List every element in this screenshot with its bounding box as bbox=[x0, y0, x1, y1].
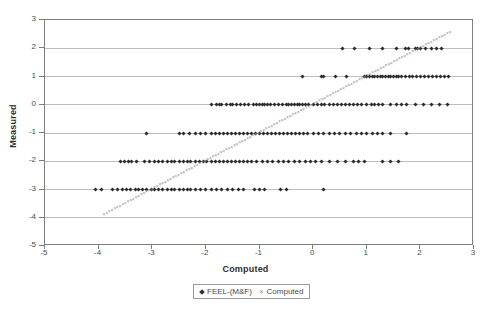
diamond-marker-icon bbox=[199, 289, 205, 295]
data-point-feel bbox=[236, 187, 240, 191]
data-point-feel bbox=[440, 46, 444, 50]
data-point-feel bbox=[314, 159, 318, 163]
data-point-feel bbox=[263, 187, 267, 191]
scatter-chart: ××××××××××××××××××××××××××××××××××××××××… bbox=[0, 0, 491, 313]
data-point-feel bbox=[303, 159, 307, 163]
data-point-feel bbox=[367, 46, 371, 50]
y-tick-label: -3 bbox=[6, 185, 36, 193]
data-point-feel bbox=[343, 131, 347, 135]
x-tick-label: 2 bbox=[404, 249, 434, 257]
y-tick-label: 2 bbox=[6, 43, 36, 51]
data-point-feel bbox=[214, 187, 218, 191]
y-tick-mark bbox=[39, 19, 44, 20]
data-point-feel bbox=[389, 103, 393, 107]
data-point-feel bbox=[413, 103, 417, 107]
y-tick-label: -5 bbox=[6, 241, 36, 249]
data-point-feel bbox=[394, 46, 398, 50]
y-tick-mark bbox=[39, 47, 44, 48]
chart-legend: FEEL-(M&F) × Computed bbox=[193, 284, 310, 299]
plot-area: ××××××××××××××××××××××××××××××××××××××××… bbox=[44, 19, 473, 245]
data-point-feel bbox=[421, 103, 425, 107]
x-tick-label: -5 bbox=[29, 249, 59, 257]
data-point-feel bbox=[280, 103, 284, 107]
data-point-feel bbox=[193, 131, 197, 135]
y-tick-label: 1 bbox=[6, 72, 36, 80]
y-tick-mark bbox=[39, 76, 44, 77]
data-point-feel bbox=[204, 187, 208, 191]
data-point-feel bbox=[334, 74, 338, 78]
data-point-feel bbox=[344, 74, 348, 78]
gridline bbox=[45, 217, 472, 218]
data-point-feel bbox=[434, 46, 438, 50]
data-point-feel bbox=[365, 131, 369, 135]
x-tick-label: -3 bbox=[136, 249, 166, 257]
data-point-feel bbox=[327, 131, 331, 135]
y-tick-label: 0 bbox=[6, 100, 36, 108]
data-point-feel bbox=[145, 131, 149, 135]
data-point-feel bbox=[193, 187, 197, 191]
y-tick-mark bbox=[39, 104, 44, 105]
data-point-feel bbox=[354, 131, 358, 135]
data-point-feel bbox=[308, 159, 312, 163]
data-point-feel bbox=[306, 131, 310, 135]
data-point-feel bbox=[319, 159, 323, 163]
x-tick-label: 0 bbox=[297, 249, 327, 257]
data-point-feel bbox=[429, 103, 433, 107]
legend-label-computed: Computed bbox=[267, 288, 304, 296]
y-tick-mark bbox=[39, 189, 44, 190]
data-point-feel bbox=[399, 103, 403, 107]
data-point-feel bbox=[298, 159, 302, 163]
y-tick-mark bbox=[39, 217, 44, 218]
data-point-feel bbox=[147, 159, 151, 163]
data-point-feel bbox=[322, 131, 326, 135]
data-point-feel bbox=[370, 131, 374, 135]
data-point-feel bbox=[257, 187, 261, 191]
data-point-feel bbox=[338, 131, 342, 135]
x-tick-label: 1 bbox=[351, 249, 381, 257]
data-point-feel bbox=[381, 46, 385, 50]
data-point-feel bbox=[249, 159, 253, 163]
data-point-feel bbox=[260, 159, 264, 163]
data-point-feel bbox=[300, 74, 304, 78]
data-point-feel bbox=[265, 159, 269, 163]
data-point-feel bbox=[339, 103, 343, 107]
data-point-feel bbox=[437, 103, 441, 107]
data-point-feel bbox=[209, 187, 213, 191]
data-point-feel bbox=[381, 103, 385, 107]
data-point-feel bbox=[287, 159, 291, 163]
data-point-computed: × bbox=[448, 31, 452, 35]
data-point-feel bbox=[188, 131, 192, 135]
data-point-feel bbox=[355, 103, 359, 107]
data-point-feel bbox=[110, 187, 114, 191]
data-point-feel bbox=[381, 131, 385, 135]
data-point-feel bbox=[365, 103, 369, 107]
cross-marker-icon: × bbox=[259, 288, 264, 296]
data-point-feel bbox=[255, 159, 259, 163]
y-tick-label: 3 bbox=[6, 15, 36, 23]
y-axis-title: Measured bbox=[8, 86, 18, 166]
data-point-feel bbox=[204, 131, 208, 135]
x-tick-label: -2 bbox=[190, 249, 220, 257]
data-point-feel bbox=[397, 159, 401, 163]
data-point-feel bbox=[181, 131, 185, 135]
data-point-feel bbox=[279, 187, 283, 191]
data-point-feel bbox=[189, 187, 193, 191]
data-point-feel bbox=[446, 74, 450, 78]
data-point-feel bbox=[381, 159, 385, 163]
data-point-feel bbox=[405, 131, 409, 135]
legend-label-feel: FEEL-(M&F) bbox=[207, 288, 252, 296]
data-point-feel bbox=[389, 159, 393, 163]
data-point-feel bbox=[353, 46, 357, 50]
data-point-feel bbox=[394, 103, 398, 107]
data-point-feel bbox=[142, 159, 146, 163]
data-point-feel bbox=[94, 187, 98, 191]
data-point-feel bbox=[359, 103, 363, 107]
data-point-feel bbox=[99, 187, 103, 191]
data-point-feel bbox=[247, 103, 251, 107]
data-point-feel bbox=[429, 46, 433, 50]
data-point-feel bbox=[362, 159, 366, 163]
data-point-feel bbox=[445, 103, 449, 107]
data-point-feel bbox=[173, 187, 177, 191]
data-point-feel bbox=[252, 187, 256, 191]
data-point-feel bbox=[209, 103, 213, 107]
